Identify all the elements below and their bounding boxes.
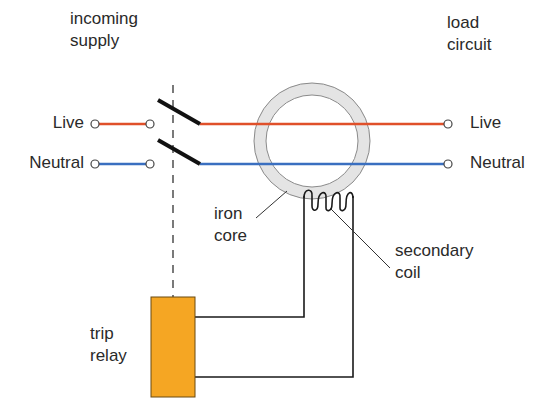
neutral-right-label: Neutral bbox=[470, 152, 525, 174]
coil-wire-upper bbox=[195, 196, 304, 317]
switch-blade-live bbox=[158, 100, 200, 124]
live-right-label: Live bbox=[470, 112, 501, 134]
terminal-neutral-out bbox=[444, 160, 452, 168]
secondary-coil-label: secondary coil bbox=[395, 240, 473, 284]
iron-core-ring bbox=[254, 83, 370, 199]
trip-relay-box bbox=[151, 297, 195, 397]
live-left-label: Live bbox=[0, 112, 84, 134]
secondary-coil-leader bbox=[330, 208, 390, 268]
neutral-left-label: Neutral bbox=[0, 152, 84, 174]
terminal-live-out bbox=[444, 120, 452, 128]
terminal-neutral-switch bbox=[146, 160, 154, 168]
live-line bbox=[91, 120, 452, 128]
load-circuit-label: load circuit bbox=[447, 12, 491, 56]
terminal-neutral-in bbox=[91, 160, 99, 168]
switch-blade-neutral bbox=[158, 140, 200, 164]
iron-core-label: iron core bbox=[214, 203, 247, 247]
rcd-circuit-diagram bbox=[0, 0, 539, 411]
terminal-live-in bbox=[91, 120, 99, 128]
trip-relay-label: trip relay bbox=[90, 323, 127, 367]
incoming-supply-label: incoming supply bbox=[70, 8, 138, 52]
terminal-live-switch bbox=[146, 120, 154, 128]
iron-core-leader bbox=[256, 191, 287, 218]
